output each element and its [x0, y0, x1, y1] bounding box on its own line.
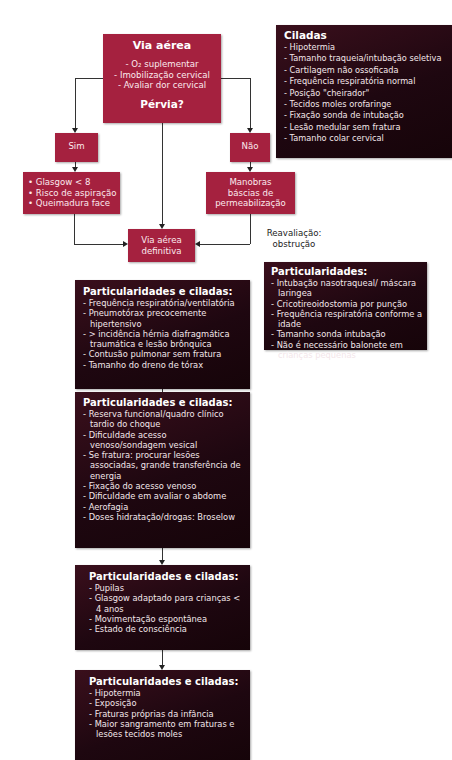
airway-maneuvers-box: Manobras báscias de permeabilização: [206, 172, 295, 214]
connector-chain-3-4: [162, 650, 163, 665]
chain-item: - Doses hidratação/drogas: Broselow: [83, 512, 245, 522]
maneuvers-line: permeabilização: [206, 198, 295, 209]
chain-item: - > incidência hérnia diafragmática trau…: [83, 329, 245, 350]
connector-right-v: [250, 78, 251, 130]
chain-item: - Reserva funcional/quadro clínico tardi…: [83, 409, 245, 430]
pitfall-item: - Tamanho colar cervical: [284, 133, 452, 144]
exposure-box: Particularidades e ciladas: - Hipotermia…: [75, 670, 250, 760]
airway-title: Via aérea: [103, 39, 221, 52]
chain-item: - Glasgow adaptado para crianças < 4 ano…: [89, 593, 245, 614]
chain-item: - Pneumotórax precocemente hipertensivo: [83, 308, 245, 329]
pitfall-item: - Hipotermia: [284, 42, 452, 53]
disability-box: Particularidades e ciladas: - Pupilas - …: [75, 565, 250, 650]
maneuvers-line: Manobras: [206, 177, 295, 188]
connector-left-v: [75, 78, 76, 130]
particularity-item: - Frequência respiratória conforme a ida…: [271, 309, 423, 330]
pitfalls-box: Ciladas - Hipotermia - Tamanho traqueia/…: [276, 25, 452, 158]
yes-box: Sim: [55, 133, 98, 162]
breathing-box: Particularidades e ciladas: - Frequência…: [75, 280, 250, 389]
chain-title: Particularidades e ciladas:: [89, 571, 245, 582]
chain-title: Particularidades e ciladas:: [89, 676, 245, 687]
airway-item: - O₂ suplementar: [103, 59, 221, 70]
pitfall-item: - Tamanho traqueia/intubação seletiva: [284, 53, 452, 64]
connector-criteria-h: [74, 244, 124, 245]
chain-title: Particularidades e ciladas:: [83, 286, 245, 297]
pitfall-item: - Cartilagem não ossoficada: [284, 65, 452, 76]
criteria-item: • Queimadura face: [28, 198, 120, 209]
chain-item: - Maior sangramento em fraturas e lesões…: [89, 719, 245, 740]
definitive-airway-box: Via aérea definitiva: [128, 229, 195, 262]
connector-chain-2-3: [162, 548, 163, 560]
reassessment-label: Reavaliação: obstrução: [254, 228, 334, 249]
airway-question: Pérvia?: [103, 98, 221, 110]
connector-maneuvers-h: [200, 244, 250, 245]
pitfall-item: - Lesão medular sem fratura: [284, 122, 452, 133]
airway-item: - Avaliar dor cervical: [103, 80, 221, 91]
connector-maneuvers-down: [250, 214, 251, 244]
chain-item: - Tamanho do dreno de tórax: [83, 360, 245, 370]
connector-center-v: [162, 123, 163, 225]
pitfalls-title: Ciladas: [284, 29, 452, 41]
particularities-box: Particularidades: - Intubação nasotraque…: [264, 262, 427, 350]
no-label: Não: [230, 141, 270, 152]
criteria-item: • Risco de aspiração: [28, 188, 120, 199]
connector-criteria-down: [74, 214, 75, 244]
chain-item: - Movimentação espontânea: [89, 614, 245, 624]
pitfall-item: - Fixação sonda de intubação: [284, 110, 452, 121]
particularity-item: - Não é necessário balonete em crianças …: [271, 340, 423, 361]
chain-item: - Frequência respiratória/ventilatória: [83, 298, 245, 308]
pitfall-item: - Tecidos moles orofaringe: [284, 99, 452, 110]
maneuvers-line: báscias de: [206, 188, 295, 199]
definitive-line: Via aérea: [128, 235, 195, 246]
no-box: Não: [230, 133, 270, 162]
chain-item: - Fixação do acesso venoso: [83, 481, 245, 491]
chain-item: - Pupilas: [89, 583, 245, 593]
chain-item: - Hipotermia: [89, 688, 245, 698]
connector-left-h: [75, 78, 103, 79]
circulation-box: Particularidades e ciladas: - Reserva fu…: [75, 392, 250, 548]
definitive-line: definitiva: [128, 246, 195, 257]
particularity-item: - Tamanho sonda intubação: [271, 329, 423, 339]
chain-item: - Contusão pulmonar sem fratura: [83, 349, 245, 359]
chain-item: - Dificuldade acesso venoso/sondagem ves…: [83, 430, 245, 451]
chain-item: - Exposição: [89, 698, 245, 708]
chain-item: - Aerofagia: [83, 502, 245, 512]
particularity-item: - Intubação nasotraqueal/ máscara laring…: [271, 278, 423, 299]
criteria-item: • Glasgow < 8: [28, 177, 120, 188]
connector-right-h: [221, 78, 251, 79]
chain-item: - Fraturas próprias da infância: [89, 709, 245, 719]
pitfall-item: - Frequência respiratória normal: [284, 76, 452, 87]
chain-item: - Dificuldade em avaliar o abdome: [83, 491, 245, 501]
chain-item: - Se fratura: procurar lesões associadas…: [83, 450, 245, 481]
airway-item: - Imobilização cervical: [103, 70, 221, 81]
reassessment-line: obstrução: [254, 239, 334, 250]
intubation-criteria-box: • Glasgow < 8 • Risco de aspiração • Que…: [23, 172, 120, 214]
yes-label: Sim: [55, 141, 98, 152]
particularities-title: Particularidades:: [271, 266, 423, 277]
arrow-maneuvers-to-definitive: [195, 241, 200, 247]
airway-box: Via aérea - O₂ suplementar - Imobilizaçã…: [103, 34, 221, 123]
chain-item: - Estado de consciência: [89, 624, 245, 634]
particularity-item: - Cricotireoidostomia por punção: [271, 299, 423, 309]
chain-title: Particularidades e ciladas:: [83, 397, 245, 408]
pitfall-item: - Posição "cheirador": [284, 88, 452, 99]
reassessment-line: Reavaliação:: [254, 228, 334, 239]
